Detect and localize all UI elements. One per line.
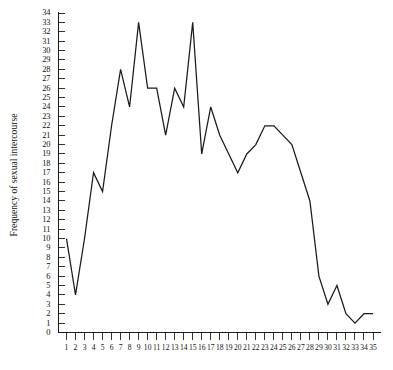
- x-tick-label: 28: [306, 343, 314, 352]
- x-tick-label: 34: [360, 343, 368, 352]
- y-tick-label: 13: [42, 206, 50, 215]
- y-tick-label: 5: [46, 281, 50, 290]
- y-tick-label: 0: [46, 328, 50, 337]
- x-tick-label: 3: [83, 343, 87, 352]
- line-chart: Frequency of sexual intercourse 01234567…: [0, 0, 393, 370]
- x-tick-label: 10: [144, 343, 152, 352]
- y-tick-label: 16: [42, 178, 50, 187]
- x-tick-label: 15: [189, 343, 197, 352]
- x-tick-label: 31: [333, 343, 341, 352]
- y-tick-label: 27: [42, 74, 50, 83]
- y-tick-label: 7: [46, 262, 50, 271]
- x-tick-label: 29: [315, 343, 323, 352]
- x-tick-label: 17: [207, 343, 215, 352]
- y-tick-label: 15: [42, 187, 50, 196]
- x-tick-label: 35: [369, 343, 377, 352]
- x-tick-label: 13: [171, 343, 179, 352]
- x-tick-label: 27: [297, 343, 305, 352]
- y-tick-label: 25: [42, 93, 50, 102]
- y-tick-label: 8: [46, 253, 50, 262]
- y-tick-marks: [59, 13, 65, 333]
- x-tick-label: 30: [324, 343, 332, 352]
- y-tick-label: 2: [46, 309, 50, 318]
- y-tick-label: 14: [42, 196, 51, 205]
- x-tick-label: 4: [92, 343, 96, 352]
- y-tick-label: 20: [42, 140, 50, 149]
- x-tick-label: 6: [110, 343, 114, 352]
- y-axis-title-label: Frequency of sexual intercourse: [8, 114, 19, 237]
- y-tick-label: 4: [46, 290, 51, 299]
- y-tick-label: 33: [42, 18, 50, 27]
- y-tick-label: 10: [42, 234, 50, 243]
- chart-container: Frequency of sexual intercourse 01234567…: [0, 0, 393, 370]
- y-tick-label: 1: [46, 319, 50, 328]
- x-tick-label: 26: [288, 343, 296, 352]
- y-tick-label: 21: [42, 131, 50, 140]
- x-tick-label: 16: [198, 343, 206, 352]
- x-tick-label: 33: [351, 343, 359, 352]
- y-tick-label: 3: [46, 300, 50, 309]
- x-tick-label: 22: [252, 343, 260, 352]
- y-tick-label: 30: [42, 46, 50, 55]
- x-tick-label: 7: [119, 343, 123, 352]
- x-tick-label: 32: [342, 343, 350, 352]
- y-tick-label: 32: [42, 27, 50, 36]
- x-tick-marks: [67, 333, 374, 340]
- y-tick-label: 29: [42, 55, 50, 64]
- y-tick-label: 24: [42, 102, 51, 111]
- x-tick-label: 21: [243, 343, 251, 352]
- x-tick-label: 20: [234, 343, 242, 352]
- data-series-line: [67, 22, 374, 323]
- x-tick-label: 23: [261, 343, 269, 352]
- x-tick-label: 14: [180, 343, 188, 352]
- x-tick-label: 12: [162, 343, 170, 352]
- x-tick-label: 8: [128, 343, 132, 352]
- y-tick-label: 12: [42, 215, 50, 224]
- x-tick-label: 9: [137, 343, 141, 352]
- y-tick-label: 31: [42, 37, 50, 46]
- x-tick-label: 5: [101, 343, 105, 352]
- y-tick-label: 11: [42, 225, 50, 234]
- y-tick-label: 9: [46, 243, 50, 252]
- x-tick-label: 2: [74, 343, 78, 352]
- y-tick-label: 6: [46, 272, 50, 281]
- y-tick-label: 17: [42, 168, 50, 177]
- y-tick-label: 18: [42, 159, 50, 168]
- x-tick-label-group: 1234567891011121314151617181920212223242…: [65, 343, 377, 352]
- y-axis-title: Frequency of sexual intercourse: [8, 114, 19, 237]
- x-tick-label: 11: [153, 343, 161, 352]
- x-tick-label: 25: [279, 343, 287, 352]
- y-tick-label: 26: [42, 84, 50, 93]
- y-tick-label: 19: [42, 149, 50, 158]
- y-tick-label: 23: [42, 112, 50, 121]
- y-tick-label: 22: [42, 121, 50, 130]
- y-tick-label: 28: [42, 65, 50, 74]
- y-tick-label: 34: [42, 8, 51, 17]
- x-tick-label: 1: [65, 343, 69, 352]
- x-tick-label: 24: [270, 343, 278, 352]
- x-tick-label: 19: [225, 343, 233, 352]
- x-tick-label: 18: [216, 343, 224, 352]
- y-tick-label-group: 0123456789101112131415161718192021222324…: [42, 8, 51, 337]
